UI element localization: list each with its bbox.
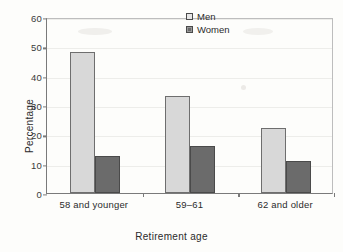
legend-label-women: Women [197,23,230,36]
x-axis-tick-mark [334,193,335,197]
legend-item-men: Men [186,10,230,23]
bar-men-0 [70,52,95,193]
x-axis-category-label: 58 and younger [49,199,139,211]
bar-men-2 [261,128,286,193]
y-axis-tick-label: 10 [8,161,47,171]
y-axis-tick-label: 50 [8,44,47,54]
y-axis-tick-label: 40 [8,73,47,83]
x-axis-title: Retirement age [0,231,343,242]
y-axis-tick-label: 60 [8,14,47,24]
bar-men-1 [165,96,190,193]
x-axis-tick-mark [238,193,239,197]
bar-women-1 [190,146,215,193]
bar-chart: Percentage 0102030405060 Retirement age … [0,0,343,252]
x-axis-tick-mark [143,193,144,197]
y-axis-tick-label: 30 [8,102,47,112]
bar-group [47,19,143,193]
legend-swatch-men-icon [186,13,193,20]
x-axis-category-label: 59–61 [145,199,235,211]
bar-women-0 [95,156,120,193]
y-axis-tick-label: 20 [8,132,47,142]
legend-item-women: Women [186,23,230,36]
legend-label-men: Men [197,10,215,23]
plot-area: 0102030405060 [46,18,333,194]
bar-group [238,19,334,193]
y-axis-tick-label: 0 [8,190,47,200]
legend-swatch-women-icon [186,26,193,33]
bar-women-2 [286,161,311,193]
bar-group [143,19,239,193]
legend: Men Women [186,10,230,36]
x-axis-category-label: 62 and older [240,199,330,211]
